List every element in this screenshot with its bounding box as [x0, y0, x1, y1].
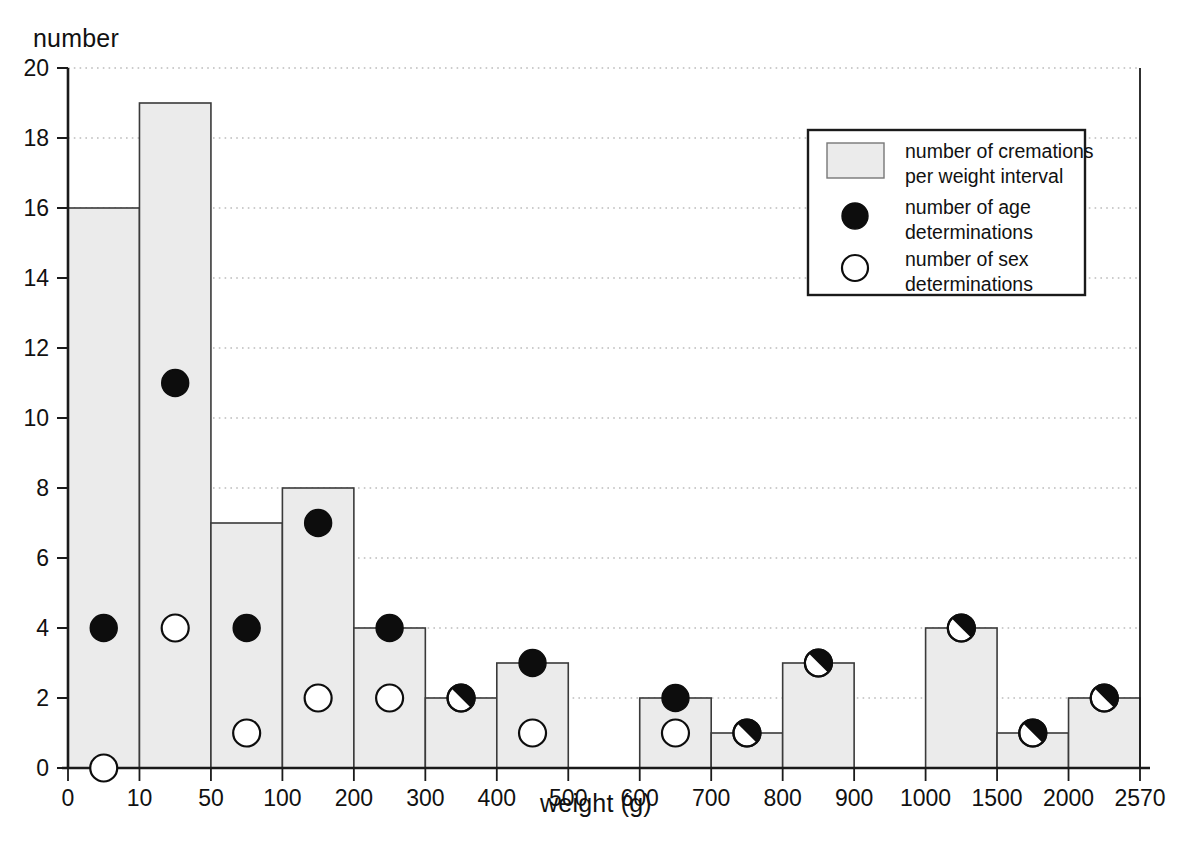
x-tick-label: 300	[406, 785, 444, 811]
y-tick-label: 2	[36, 685, 49, 711]
combined-marker	[448, 685, 475, 712]
x-tick-label: 0	[62, 785, 75, 811]
y-tick-label: 8	[36, 475, 49, 501]
bar	[497, 663, 568, 768]
x-tick-label: 1000	[900, 785, 951, 811]
y-tick-label: 10	[23, 405, 49, 431]
sex-marker	[162, 615, 189, 642]
sex-marker	[376, 685, 403, 712]
x-tick-label: 2000	[1043, 785, 1094, 811]
x-tick-label: 100	[263, 785, 301, 811]
bar	[139, 103, 210, 768]
age-marker	[305, 510, 332, 537]
bar	[68, 208, 139, 768]
age-marker	[162, 370, 189, 397]
age-marker	[376, 615, 403, 642]
figure-caption	[34, 836, 1154, 855]
x-tick-label: 10	[127, 785, 153, 811]
combined-marker	[733, 720, 760, 747]
bar-swatch	[827, 143, 884, 178]
age-marker	[90, 615, 117, 642]
sex-marker	[519, 720, 546, 747]
legend-label-line2: per weight interval	[905, 165, 1063, 187]
legend-label-line2: determinations	[905, 221, 1033, 243]
age-marker	[662, 685, 689, 712]
y-tick-label: 14	[23, 265, 49, 291]
x-tick-label: 500	[549, 785, 587, 811]
x-tick-label: 700	[692, 785, 730, 811]
y-tick-label: 16	[23, 195, 49, 221]
age-marker	[233, 615, 260, 642]
bar	[926, 628, 997, 768]
y-tick-label: 20	[23, 55, 49, 81]
figure: number weight (g) 02468101214161820 0105…	[0, 0, 1192, 855]
open-circle-swatch	[842, 255, 868, 281]
bar	[783, 663, 854, 768]
filled-circle-swatch	[842, 203, 868, 229]
legend-label-line1: number of cremations	[905, 140, 1094, 162]
age-marker	[519, 650, 546, 677]
sex-marker	[90, 755, 117, 782]
legend-label-line1: number of sex	[905, 248, 1029, 270]
x-tick-label: 600	[621, 785, 659, 811]
legend-label-line1: number of age	[905, 196, 1031, 218]
sex-marker	[662, 720, 689, 747]
sex-marker	[233, 720, 260, 747]
x-tick-label: 50	[198, 785, 224, 811]
y-tick-label: 4	[36, 615, 49, 641]
chart-canvas: 02468101214161820 0105010020030040050060…	[0, 0, 1192, 855]
x-axis-ticks: 0105010020030040050060070080090010001500…	[62, 768, 1166, 811]
combined-marker	[1019, 720, 1046, 747]
legend-label-line2: determinations	[905, 273, 1033, 295]
x-tick-label: 900	[835, 785, 873, 811]
y-tick-label: 0	[36, 755, 49, 781]
y-axis-ticks: 02468101214161820	[23, 55, 68, 781]
y-tick-label: 6	[36, 545, 49, 571]
x-tick-label: 1500	[971, 785, 1022, 811]
x-tick-label: 800	[763, 785, 801, 811]
combined-marker	[805, 650, 832, 677]
x-tick-label: 400	[478, 785, 516, 811]
y-tick-label: 18	[23, 125, 49, 151]
x-tick-label: 200	[335, 785, 373, 811]
y-tick-label: 12	[23, 335, 49, 361]
x-tick-label: 2570	[1114, 785, 1165, 811]
combined-marker	[1091, 685, 1118, 712]
combined-marker	[948, 615, 975, 642]
legend: number of cremationsper weight intervaln…	[808, 130, 1094, 295]
sex-marker	[305, 685, 332, 712]
